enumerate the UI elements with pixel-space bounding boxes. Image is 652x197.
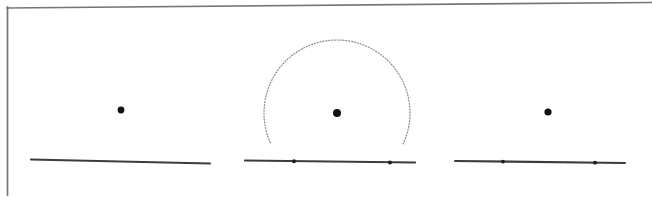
figure-canvas [0, 0, 652, 196]
panel-2-compass-arc [264, 40, 410, 144]
panel-2-intersection-point-left [292, 159, 296, 163]
page-border [7, 3, 652, 197]
panel-3-center-point [544, 108, 551, 115]
panel-1-baseline [31, 160, 210, 164]
panel-1-center-point [118, 107, 125, 114]
panel-3 [455, 108, 625, 164]
panel-3-intersection-point-left [501, 160, 505, 164]
panel-3-baseline [455, 161, 625, 163]
panel-3-intersection-point-right [593, 161, 597, 165]
construction-diagram [0, 0, 652, 196]
panel-2-center-point [333, 109, 341, 117]
panel-2-intersection-point-right [388, 160, 392, 164]
panel-2 [245, 40, 415, 164]
panel-1 [31, 107, 210, 164]
frame-top-edge [7, 3, 652, 9]
